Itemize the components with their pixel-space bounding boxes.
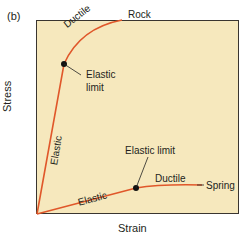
spring-name-label: Spring	[206, 181, 235, 191]
stress-strain-curves	[0, 0, 250, 243]
rock-curve	[37, 20, 122, 214]
spring-ductile-label: Ductile	[155, 174, 186, 184]
rock-limit-label-1: Elastic	[86, 70, 115, 80]
y-axis-label: Stress	[1, 81, 13, 112]
rock-limit-leader	[64, 64, 81, 75]
spring-limit-label: Elastic limit	[125, 146, 175, 156]
x-axis-label: Strain	[118, 222, 147, 234]
spring-curve	[37, 185, 202, 214]
rock-name-label: Rock	[128, 10, 151, 20]
rock-limit-label-2: limit	[86, 83, 104, 93]
spring-limit-leader	[136, 157, 148, 188]
